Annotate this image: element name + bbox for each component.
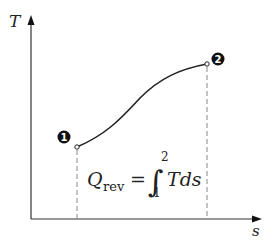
point-2-marker xyxy=(205,62,209,66)
point-1-marker xyxy=(75,145,79,149)
process-curve xyxy=(77,64,207,147)
y-axis-arrow-icon xyxy=(28,15,35,25)
upper-limit: 2 xyxy=(161,150,169,164)
equation-q-rev: Q rev = ∫ 2 1 Tds xyxy=(87,150,202,200)
svg-text:=: = xyxy=(130,168,146,190)
lower-limit: 1 xyxy=(153,186,161,200)
y-axis xyxy=(28,15,35,219)
svg-text:rev: rev xyxy=(103,179,125,194)
svg-text:1: 1 xyxy=(61,132,68,143)
x-axis xyxy=(31,216,262,223)
integrand: Tds xyxy=(167,168,202,190)
point-2-label: 2 xyxy=(212,53,225,66)
svg-text:Q: Q xyxy=(87,168,103,190)
svg-text:2: 2 xyxy=(215,54,222,65)
y-axis-label: T xyxy=(9,11,22,31)
ts-diagram: T s 1 2 Q rev = ∫ 2 1 Tds xyxy=(0,0,275,247)
x-axis-label: s xyxy=(252,222,260,240)
point-1-label: 1 xyxy=(58,131,71,144)
